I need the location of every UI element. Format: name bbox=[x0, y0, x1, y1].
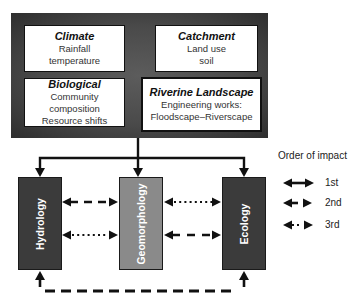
ecology-box: Ecology bbox=[222, 177, 266, 270]
hydro-geo-dashed-arrow bbox=[62, 198, 118, 207]
first-order-connector bbox=[40, 138, 244, 170]
legend-arrow-3rd bbox=[283, 221, 313, 230]
geo-eco-dotted-arrow bbox=[164, 198, 221, 207]
bottom-loop-dashed-arrow bbox=[35, 271, 249, 291]
legend-label-3rd: 3rd bbox=[325, 219, 339, 230]
hydrology-box: Hydrology bbox=[18, 177, 62, 270]
hydro-geo-dotted-arrow bbox=[62, 231, 118, 240]
geomorphology-box: Geomorphology bbox=[119, 177, 163, 270]
first-order-arrowheads bbox=[35, 168, 249, 177]
legend-label-2nd: 2nd bbox=[325, 197, 342, 208]
legend-arrow-1st bbox=[283, 179, 314, 188]
legend-label-1st: 1st bbox=[325, 177, 338, 188]
geo-eco-dashed-arrow bbox=[164, 231, 221, 240]
legend-title: Order of impact bbox=[278, 150, 347, 161]
hydrology-label: Hydrology bbox=[34, 198, 46, 250]
legend-arrow-2nd bbox=[283, 199, 312, 208]
geomorphology-label: Geomorphology bbox=[135, 183, 147, 264]
ecology-label: Ecology bbox=[238, 203, 250, 244]
